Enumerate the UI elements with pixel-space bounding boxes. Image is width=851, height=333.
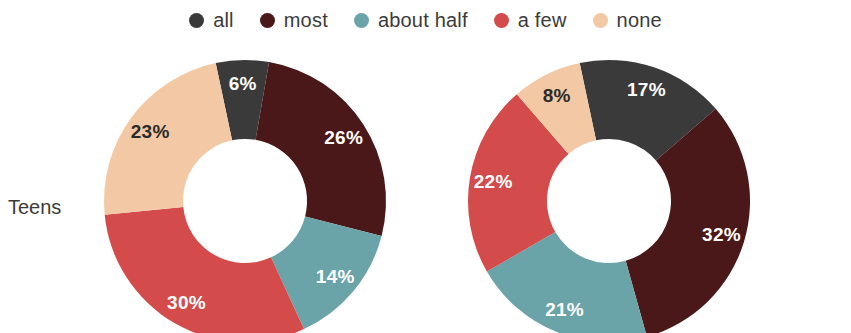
slice-value-label: 23% — [131, 121, 170, 142]
donut-chart-young-adults: 17%32%21%22%8% — [468, 60, 750, 333]
slice-value-label: 6% — [229, 73, 257, 94]
legend-item-all: all — [189, 10, 234, 30]
legend-label-most: most — [284, 10, 328, 30]
legend-swatch-a-few-icon — [494, 13, 509, 28]
legend-swatch-about-half-icon — [354, 13, 369, 28]
legend-item-none: none — [593, 10, 662, 30]
slice-value-label: 17% — [627, 79, 666, 100]
legend-label-none: none — [617, 10, 662, 30]
legend-label-about-half: about half — [378, 10, 468, 30]
legend-swatch-all-icon — [189, 13, 204, 28]
donut-svg-teens: 6%26%14%30%23% — [104, 60, 386, 333]
legend-item-about-half: about half — [354, 10, 468, 30]
donut-charts-row: Teens 6%26%14%30%23% Young adults 17%32%… — [0, 40, 851, 333]
slice-value-label: 22% — [474, 171, 513, 192]
legend-swatch-none-icon — [593, 13, 608, 28]
slice-value-label: 21% — [545, 299, 584, 320]
donut-chart-teens: 6%26%14%30%23% — [104, 60, 386, 333]
donut-svg-young-adults: 17%32%21%22%8% — [468, 60, 750, 333]
chart-group-young-adults: Young adults 17%32%21%22%8% — [420, 40, 851, 333]
legend-label-a-few: a few — [518, 10, 567, 30]
chart-group-teens: Teens 6%26%14%30%23% — [0, 40, 420, 333]
legend-item-most: most — [260, 10, 328, 30]
donut-slice-most[interactable] — [256, 62, 386, 236]
group-label-teens: Teens — [8, 195, 61, 219]
legend-label-all: all — [213, 10, 234, 30]
slice-value-label: 32% — [702, 224, 741, 245]
chart-legend: all most about half a few none — [0, 0, 851, 40]
slice-value-label: 26% — [324, 127, 363, 148]
legend-item-a-few: a few — [494, 10, 567, 30]
legend-swatch-most-icon — [260, 13, 275, 28]
slice-value-label: 14% — [316, 266, 355, 287]
slice-value-label: 8% — [543, 85, 571, 106]
donut-slice-a-few[interactable] — [105, 207, 304, 333]
slice-value-label: 30% — [167, 292, 206, 313]
